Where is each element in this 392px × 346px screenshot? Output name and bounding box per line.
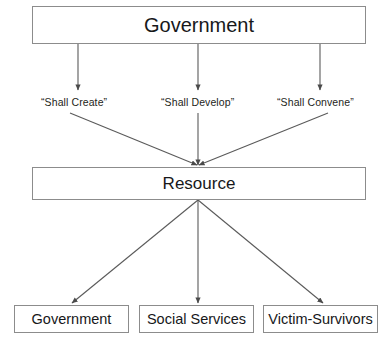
edge-shall-create-to-resource (70, 113, 197, 165)
edge-label-shall-develop: “Shall Develop” (161, 96, 234, 108)
node-leaf-social-services-label: Social Services (147, 311, 246, 327)
node-leaf-government: Government (14, 305, 129, 333)
node-leaf-victim-survivors: Victim-Survivors (263, 305, 378, 333)
edge-shall-convene-to-resource (199, 113, 328, 165)
node-government-top: Government (32, 6, 366, 44)
node-government-top-label: Government (144, 14, 254, 37)
node-leaf-government-label: Government (32, 311, 112, 327)
edge-resource-to-leaf-government (72, 200, 198, 303)
edge-label-shall-convene: “Shall Convene” (277, 96, 354, 108)
node-leaf-social-services: Social Services (139, 305, 254, 333)
node-leaf-victim-survivors-label: Victim-Survivors (268, 311, 372, 327)
edge-resource-to-leaf-victim-survivors (198, 200, 323, 303)
node-resource-label: Resource (163, 174, 236, 194)
node-resource: Resource (32, 167, 366, 200)
edge-label-shall-create: “Shall Create” (41, 96, 107, 108)
diagram-canvas: Government “Shall Create” “Shall Develop… (0, 0, 392, 346)
